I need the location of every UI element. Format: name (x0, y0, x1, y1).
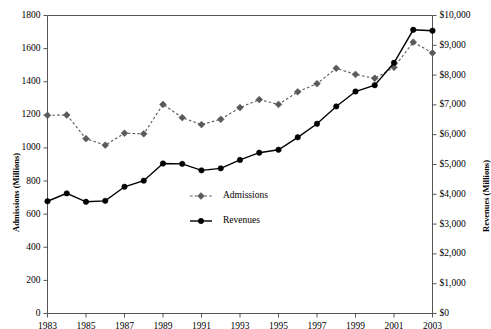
chart-container: Admissions (Millions) Revenues (Millions… (0, 0, 486, 329)
plot-area (0, 0, 486, 329)
